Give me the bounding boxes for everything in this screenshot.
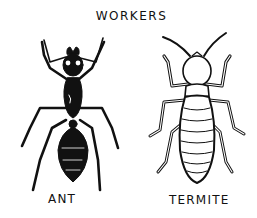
termite-label: TERMITE xyxy=(169,193,229,207)
insect-drawings xyxy=(0,0,257,218)
ant-label: ANT xyxy=(48,192,76,206)
termite-figure xyxy=(150,33,244,183)
ant-figure xyxy=(22,38,118,190)
